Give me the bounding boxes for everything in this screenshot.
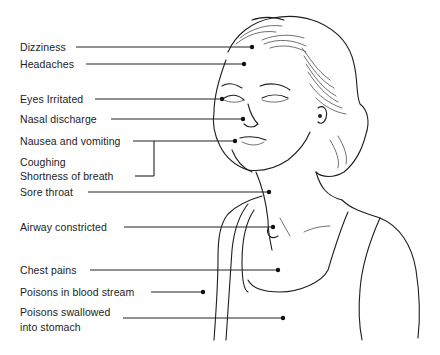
label-shortness-of-breath: Shortness of breath: [20, 169, 114, 183]
label-poisons-swallowed: Poisons swallowed: [20, 305, 110, 319]
label-nausea-vomiting: Nausea and vomiting: [20, 134, 121, 148]
label-into-stomach: into stomach: [20, 320, 81, 334]
poison-symptoms-diagram: Dizziness Headaches Eyes Irritated Nasal…: [0, 0, 440, 355]
label-poisons-blood-stream: Poisons in blood stream: [20, 285, 134, 299]
label-airway-constricted: Airway constricted: [20, 220, 107, 234]
label-sore-throat: Sore throat: [20, 185, 73, 199]
label-chest-pains: Chest pains: [20, 263, 77, 277]
label-eyes-irritated: Eyes Irritated: [20, 92, 83, 106]
label-dizziness: Dizziness: [20, 40, 66, 54]
hair-outline: [228, 16, 368, 176]
face-outline: [213, 60, 310, 171]
label-nasal-discharge: Nasal discharge: [20, 112, 97, 126]
label-headaches: Headaches: [20, 57, 74, 71]
label-coughing: Coughing: [20, 155, 66, 169]
